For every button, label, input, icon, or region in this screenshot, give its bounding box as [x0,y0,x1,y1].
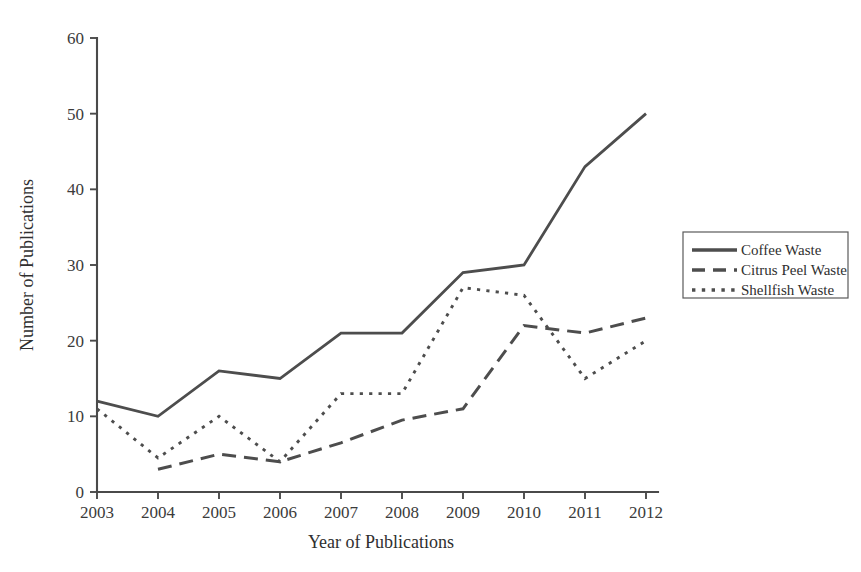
x-tick-label: 2005 [202,503,236,522]
y-tick-label: 40 [67,180,84,199]
y-tick-label: 50 [67,105,84,124]
y-tick-label: 10 [67,407,84,426]
y-axis-title: Number of Publications [17,179,37,351]
x-axis-tick-labels: 2003200420052006200720082009201020112012 [80,503,663,522]
series-lines [97,114,646,470]
x-tick-label: 2011 [568,503,601,522]
x-tick-label: 2009 [446,503,480,522]
x-tick-label: 2010 [507,503,541,522]
series-line-citrus-peel-waste [158,318,646,469]
x-axis-title: Year of Publications [308,532,454,552]
line-chart: 0102030405060 20032004200520062007200820… [0,0,861,572]
legend-label: Citrus Peel Waste [741,262,847,278]
y-tick-label: 30 [67,256,84,275]
x-tick-label: 2008 [385,503,419,522]
x-tick-label: 2007 [324,503,359,522]
y-tick-label: 60 [67,29,84,48]
y-tick-label: 0 [76,483,85,502]
chart-legend: Coffee WasteCitrus Peel WasteShellfish W… [683,232,848,298]
series-line-shellfish-waste [97,288,646,462]
x-tick-label: 2012 [629,503,663,522]
series-line-coffee-waste [97,114,646,417]
y-tick-label: 20 [67,332,84,351]
x-tick-label: 2003 [80,503,114,522]
x-tick-label: 2006 [263,503,297,522]
legend-label: Coffee Waste [741,242,822,258]
legend-label: Shellfish Waste [741,282,834,298]
x-tick-label: 2004 [141,503,176,522]
chart-canvas: 0102030405060 20032004200520062007200820… [0,0,861,572]
y-axis-tick-labels: 0102030405060 [67,29,84,502]
